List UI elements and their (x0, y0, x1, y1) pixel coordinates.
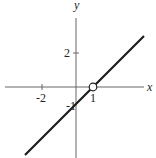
y-axis-label: y (73, 0, 80, 12)
tick-label-1: 1 (90, 91, 96, 105)
tick-label-neg2: -2 (36, 91, 46, 105)
tick-label-2: 2 (64, 46, 70, 60)
graph: x y -2 1 2 -1 (0, 0, 156, 158)
open-circle-hole (89, 83, 97, 91)
x-axis-label: x (146, 80, 153, 94)
